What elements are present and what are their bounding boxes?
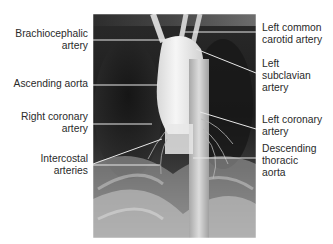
label-line: artery — [15, 40, 88, 52]
label-line: artery — [262, 126, 322, 138]
label-line: artery — [21, 123, 88, 135]
label-ascending-aorta: Ascending aorta — [14, 78, 88, 90]
label-left-subclavian-artery: Left subclavian artery — [262, 58, 311, 94]
label-line: Descending — [262, 143, 316, 155]
angiogram-figure: Brachiocephalic artery Ascending aorta R… — [0, 0, 333, 244]
label-line: arteries — [40, 165, 88, 177]
label-line: artery — [262, 82, 311, 94]
label-left-common-carotid-artery: Left common carotid artery — [262, 22, 322, 46]
label-line: subclavian — [262, 70, 311, 82]
label-brachiocephalic-artery: Brachiocephalic artery — [15, 28, 88, 52]
label-line: Brachiocephalic — [15, 28, 88, 40]
label-line: Left common — [262, 22, 322, 34]
label-right-coronary-artery: Right coronary artery — [21, 111, 88, 135]
label-line: carotid artery — [262, 34, 322, 46]
label-line: Left coronary — [262, 114, 322, 126]
label-descending-thoracic-aorta: Descending thoracic aorta — [262, 143, 316, 179]
label-line: aorta — [262, 167, 316, 179]
label-line: Intercostal — [40, 153, 88, 165]
label-line: Left — [262, 58, 311, 70]
label-line: Ascending aorta — [14, 78, 88, 90]
aortogram-image — [93, 14, 256, 238]
label-line: Right coronary — [21, 111, 88, 123]
label-line: thoracic — [262, 155, 316, 167]
label-left-coronary-artery: Left coronary artery — [262, 114, 322, 138]
label-intercostal-arteries: Intercostal arteries — [40, 153, 88, 177]
